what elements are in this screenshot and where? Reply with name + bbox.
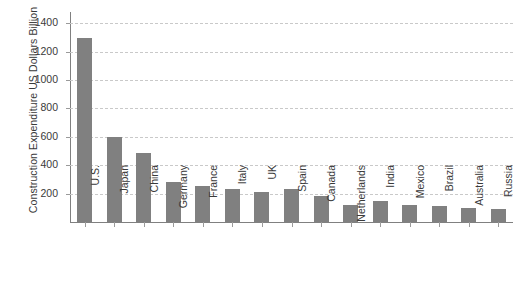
- x-tick-mark: [262, 222, 263, 227]
- x-tick-mark: [469, 222, 470, 227]
- x-tick-mark: [232, 222, 233, 227]
- x-tick-label: UK: [267, 165, 278, 231]
- x-tick-mark: [321, 222, 322, 227]
- y-tick-label: 800: [18, 101, 58, 113]
- y-tick-label: 400: [18, 158, 58, 170]
- x-tick-mark: [144, 222, 145, 227]
- x-tick-label: Russia: [503, 165, 514, 231]
- x-tick-label: Brazil: [444, 165, 455, 231]
- x-tick-label: U.S.: [90, 165, 101, 231]
- bar-chart: Construction Expenditure US Dollars Bill…: [0, 0, 521, 290]
- x-tick-label: Mexico: [415, 165, 426, 231]
- x-tick-label: Canada: [326, 165, 337, 231]
- y-tick-label: 600: [18, 130, 58, 142]
- x-tick-label: Italy: [237, 165, 248, 231]
- x-tick-label: France: [208, 165, 219, 231]
- x-tick-mark: [173, 222, 174, 227]
- y-tick-label: 1400: [18, 16, 58, 28]
- x-tick-label: Spain: [297, 165, 308, 231]
- y-tick-label: 200: [18, 187, 58, 199]
- x-tick-mark: [203, 222, 204, 227]
- x-tick-mark: [85, 222, 86, 227]
- x-tick-label: Australia: [474, 165, 485, 231]
- x-tick-label: India: [385, 165, 396, 231]
- x-tick-label: Japan: [119, 165, 130, 231]
- x-tick-mark: [351, 222, 352, 227]
- x-tick-mark: [380, 222, 381, 227]
- x-tick-mark: [439, 222, 440, 227]
- x-tick-label: China: [149, 165, 160, 231]
- x-tick-label: Netherlands: [356, 165, 367, 231]
- x-tick-mark: [498, 222, 499, 227]
- x-tick-mark: [410, 222, 411, 227]
- y-tick-label: 1200: [18, 45, 58, 57]
- x-tick-mark: [114, 222, 115, 227]
- y-tick-label: 1000: [18, 73, 58, 85]
- x-tick-mark: [292, 222, 293, 227]
- x-tick-label: Germany: [178, 165, 189, 231]
